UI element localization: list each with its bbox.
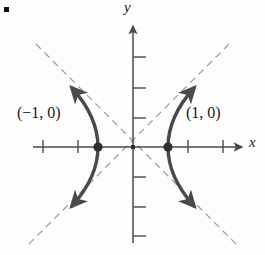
axes-group [33,26,242,243]
right-branch-lower [168,147,194,206]
point-label-left-vertex: (−1, 0) [17,104,61,122]
origin-point [131,145,135,149]
asymptote-y-equals-x [28,44,229,245]
y-axis-label: y [124,0,131,16]
x-axis-label: x [249,134,256,151]
asymptote-y-equals-negative-x [36,44,237,245]
hyperbola-figure [0,0,265,255]
point-label-right-vertex: (1, 0) [186,104,221,122]
vertex-point-left [93,142,102,151]
left-branch-upper [72,88,98,147]
vertex-point-right [163,142,172,151]
